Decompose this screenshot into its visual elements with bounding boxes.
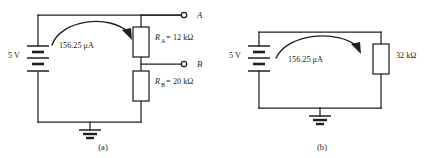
panel-a-caption: (a) [98, 142, 108, 152]
terminal-b-node [181, 61, 186, 66]
ground-b [309, 108, 331, 124]
circuit-figure: 5 V 156.25 μA R A = 12 kΩ R B = 20 kΩ A … [0, 0, 441, 158]
resistor-rb-body [133, 71, 149, 101]
panel-a: 5 V 156.25 μA R A = 12 kΩ R B = 20 kΩ A … [8, 10, 203, 152]
battery-a [27, 46, 49, 71]
terminal-b-label: B [197, 59, 203, 69]
terminal-a-node [181, 12, 186, 17]
terminal-a-label: A [196, 10, 203, 20]
resistor-ra-equals: = [166, 33, 171, 42]
resistor-rb-label: R B = 20 kΩ [154, 77, 193, 88]
ground-a [79, 122, 101, 138]
resistor-equivalent-label: 32 kΩ [396, 51, 416, 60]
resistor-rb-symbol: R [154, 77, 160, 86]
panel-b-caption: (b) [317, 142, 327, 152]
circuit-diagram-canvas: 5 V 156.25 μA R A = 12 kΩ R B = 20 kΩ A … [0, 0, 441, 158]
resistor-rb-subscript: B [161, 81, 165, 88]
panel-b: 5 V 156.25 μA 32 kΩ (b) [229, 32, 416, 152]
source-label-b: 5 V [229, 51, 241, 60]
resistor-rb-value: 20 kΩ [173, 77, 193, 86]
resistor-equivalent-body [373, 44, 389, 74]
current-arrow-a-head [122, 28, 132, 40]
resistor-ra-label: R A = 12 kΩ [154, 33, 193, 44]
resistor-ra-symbol: R [154, 33, 160, 42]
source-label-a: 5 V [8, 51, 20, 60]
battery-b [248, 46, 270, 71]
resistor-ra-body [133, 27, 149, 57]
current-arrow-b-head [351, 42, 361, 54]
current-label-b: 156.25 μA [288, 55, 323, 64]
current-label-a: 156.25 μA [59, 41, 94, 50]
resistor-rb-equals: = [166, 77, 171, 86]
resistor-ra-value: 12 kΩ [173, 33, 193, 42]
